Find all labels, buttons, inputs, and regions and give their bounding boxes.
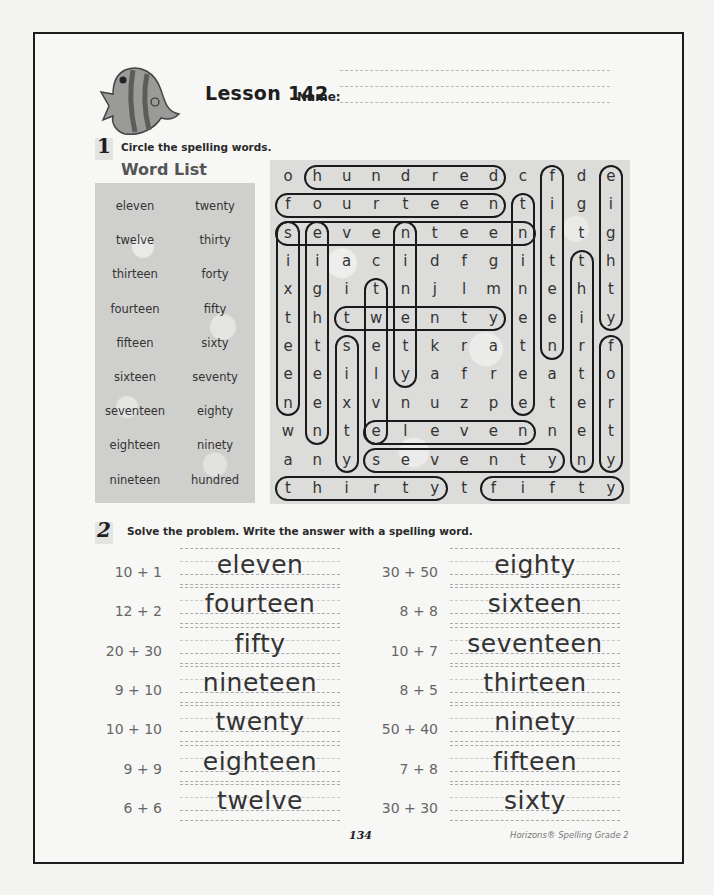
grid-letter[interactable]: t (572, 223, 592, 243)
grid-letter[interactable]: g (483, 251, 503, 271)
circled-word-eleven[interactable] (363, 420, 536, 445)
problem-left-1: 12 + 2 (80, 603, 162, 619)
answer-right-6[interactable]: sixty (445, 786, 625, 815)
circled-word-ninety[interactable] (393, 221, 417, 388)
answer-right-1[interactable]: sixteen (445, 589, 625, 618)
answer-right-2[interactable]: seventeen (445, 629, 625, 658)
writing-guide-line (180, 741, 340, 742)
section-2-instruction: Solve the problem. Write the answer with… (127, 525, 473, 537)
writing-guide-line (180, 584, 340, 585)
answer-left-4[interactable]: twenty (170, 707, 350, 736)
grid-letter[interactable]: a (425, 364, 445, 384)
circled-word-twenty[interactable] (334, 306, 507, 331)
grid-letter[interactable]: d (572, 166, 592, 186)
grid-letter[interactable]: c (513, 166, 533, 186)
grid-letter[interactable]: n (395, 393, 415, 413)
section-1-number: 1 (97, 134, 111, 158)
circled-word-thirteen[interactable] (570, 250, 594, 473)
answer-right-0[interactable]: eighty (445, 550, 625, 579)
grid-letter[interactable]: o (278, 166, 298, 186)
problem-left-6: 6 + 6 (80, 800, 162, 816)
writing-guide-line (450, 820, 620, 821)
writing-guide-line (450, 705, 620, 706)
grid-letter[interactable]: k (425, 336, 445, 356)
circled-word-eighteen[interactable] (305, 221, 329, 444)
answer-left-6[interactable]: twelve (170, 786, 350, 815)
grid-letter[interactable]: l (454, 279, 474, 299)
grid-letter[interactable]: t (454, 478, 474, 498)
circled-word-twelve[interactable] (364, 278, 388, 445)
writing-guide-line (450, 623, 620, 624)
page-number: 134 (349, 829, 372, 842)
problem-left-4: 10 + 10 (80, 721, 162, 737)
grid-letter[interactable]: n (307, 450, 327, 470)
word-list-item: thirty (175, 233, 255, 247)
grid-letter[interactable]: f (454, 251, 474, 271)
word-list-item: twelve (95, 233, 175, 247)
word-list-item: seventy (175, 370, 255, 384)
answer-left-1[interactable]: fourteen (170, 589, 350, 618)
grid-letter[interactable]: c (366, 251, 386, 271)
circled-word-thirty[interactable] (275, 476, 448, 501)
word-list-item: twenty (175, 199, 255, 213)
grid-letter[interactable]: a (337, 251, 357, 271)
answer-left-0[interactable]: eleven (170, 550, 350, 579)
word-list-item: hundred (175, 473, 255, 487)
grid-letter[interactable]: g (572, 194, 592, 214)
circled-word-seventy[interactable] (363, 448, 565, 473)
word-list-item: ninety (175, 438, 255, 452)
problem-right-0: 30 + 50 (360, 564, 438, 580)
writing-guide-line (180, 705, 340, 706)
circled-word-nineteen[interactable] (511, 193, 535, 416)
word-list: eleventwentytwelvethirtythirteenfortyfou… (95, 183, 255, 503)
answer-right-3[interactable]: thirteen (445, 668, 625, 697)
word-list-item: nineteen (95, 473, 175, 487)
answer-left-3[interactable]: nineteen (170, 668, 350, 697)
grid-letter[interactable]: i (337, 279, 357, 299)
grid-letter[interactable]: j (425, 279, 445, 299)
answer-right-4[interactable]: ninety (445, 707, 625, 736)
grid-letter[interactable]: f (454, 364, 474, 384)
name-field[interactable] (340, 70, 610, 120)
grid-letter[interactable]: t (542, 393, 562, 413)
section-2-number: 2 (97, 518, 111, 542)
fish-icon (95, 62, 185, 142)
problem-left-3: 9 + 10 (80, 682, 162, 698)
writing-guide-line (180, 784, 340, 785)
circled-word-fifty[interactable] (480, 476, 623, 501)
grid-letter[interactable]: u (425, 393, 445, 413)
answer-left-2[interactable]: fifty (170, 629, 350, 658)
answer-left-5[interactable]: eighteen (170, 747, 350, 776)
writing-guide-line (180, 587, 340, 588)
grid-letter[interactable]: a (278, 450, 298, 470)
writing-guide-line (180, 627, 340, 628)
circled-word-forty[interactable] (599, 335, 623, 473)
circled-word-fourteen[interactable] (275, 193, 506, 218)
grid-letter[interactable]: d (425, 251, 445, 271)
circled-word-sixteen[interactable] (276, 221, 300, 416)
circled-word-fifteen[interactable] (540, 165, 564, 360)
grid-letter[interactable]: m (483, 279, 503, 299)
circled-word-sixty[interactable] (335, 335, 359, 473)
writing-guide-line (450, 666, 620, 667)
writing-guide-line (450, 584, 620, 585)
grid-letter[interactable]: r (454, 336, 474, 356)
grid-letter[interactable]: a (483, 336, 503, 356)
circled-word-eighty[interactable] (599, 165, 623, 332)
grid-letter[interactable]: r (483, 364, 503, 384)
grid-letter[interactable]: n (542, 421, 562, 441)
grid-letter[interactable]: a (542, 364, 562, 384)
word-list-item: forty (175, 267, 255, 281)
circled-word-hundred[interactable] (304, 165, 506, 190)
writing-guide-line (450, 548, 620, 549)
problem-right-4: 50 + 40 (360, 721, 438, 737)
word-list-item: sixty (175, 336, 255, 350)
name-label: Name: (297, 90, 341, 104)
grid-letter[interactable]: w (278, 421, 298, 441)
grid-letter[interactable]: z (454, 393, 474, 413)
problem-right-5: 7 + 8 (360, 761, 438, 777)
grid-letter[interactable]: p (483, 393, 503, 413)
word-list-item: fifteen (95, 336, 175, 350)
problem-left-0: 10 + 1 (80, 564, 162, 580)
answer-right-5[interactable]: fifteen (445, 747, 625, 776)
